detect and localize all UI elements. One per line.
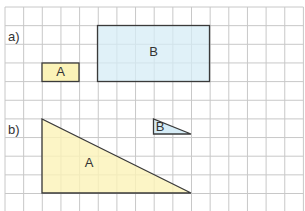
triangle-b-label: B	[156, 119, 165, 134]
part-a-shape-b: B	[98, 26, 210, 82]
grid-diagram: a) A B b) A B	[0, 0, 305, 211]
shape-a-label: A	[56, 64, 65, 79]
shape-b-label: B	[149, 44, 158, 59]
triangle-a-label: A	[85, 155, 94, 170]
part-a-label: a)	[8, 29, 20, 44]
part-b-label: b)	[8, 122, 20, 137]
part-a-shape-a: A	[42, 63, 79, 82]
part-b-triangle-b: B	[154, 119, 192, 134]
